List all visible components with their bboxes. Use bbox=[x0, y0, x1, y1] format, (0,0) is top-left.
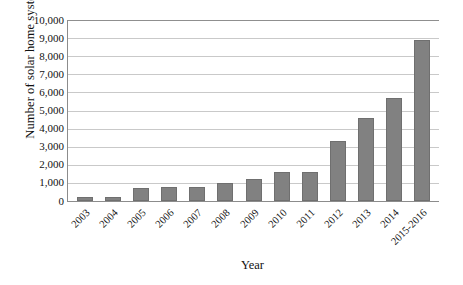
x-axis-tick-label: 2014 bbox=[378, 207, 401, 230]
bar-slot bbox=[99, 20, 127, 201]
x-axis-tick-label: 2011 bbox=[294, 207, 316, 229]
x-tick-slot: 2012 bbox=[323, 203, 351, 253]
x-axis-tick-label: 2007 bbox=[181, 207, 204, 230]
x-axis-tick-labels: 2003200420052006200720082009201020112012… bbox=[67, 203, 438, 253]
bar-slot bbox=[71, 20, 99, 201]
x-tick-slot: 2006 bbox=[154, 203, 182, 253]
bar-slot bbox=[183, 20, 211, 201]
y-axis-tick-label: 5,000 bbox=[26, 105, 64, 116]
bar bbox=[330, 141, 346, 201]
bar bbox=[133, 188, 149, 201]
bar bbox=[274, 172, 290, 201]
bar-slot bbox=[268, 20, 296, 201]
bar-slot bbox=[127, 20, 155, 201]
y-axis-tick-label: 7,000 bbox=[26, 69, 64, 80]
x-tick-slot: 2004 bbox=[98, 203, 126, 253]
bar-slot bbox=[408, 20, 436, 201]
x-axis-tick-label: 2004 bbox=[97, 207, 120, 230]
bar bbox=[386, 98, 402, 201]
bar-slot bbox=[155, 20, 183, 201]
bar bbox=[217, 183, 233, 201]
x-axis-tick-label: 2005 bbox=[125, 207, 148, 230]
bar bbox=[189, 187, 205, 201]
x-tick-slot: 2003 bbox=[70, 203, 98, 253]
bar bbox=[77, 197, 93, 201]
x-axis-tick-label: 2009 bbox=[238, 207, 261, 230]
x-tick-slot: 2007 bbox=[182, 203, 210, 253]
y-axis-tick-label: 8,000 bbox=[26, 51, 64, 62]
x-tick-slot: 2005 bbox=[126, 203, 154, 253]
y-axis-tick-label: 3,000 bbox=[26, 141, 64, 152]
y-axis-tick-label: 1,000 bbox=[26, 177, 64, 188]
x-axis-tick-label: 2012 bbox=[322, 207, 345, 230]
x-axis-tick-label: 2010 bbox=[266, 207, 289, 230]
bar-slot bbox=[352, 20, 380, 201]
bar bbox=[414, 40, 430, 201]
bar-slot bbox=[296, 20, 324, 201]
x-tick-slot: 2013 bbox=[351, 203, 379, 253]
x-tick-slot: 2011 bbox=[295, 203, 323, 253]
bar bbox=[246, 179, 262, 201]
x-axis-tick-label: 2003 bbox=[69, 207, 92, 230]
y-axis-tick-label: 0 bbox=[26, 196, 64, 207]
x-tick-slot: 2008 bbox=[210, 203, 238, 253]
bar-slot bbox=[380, 20, 408, 201]
bar bbox=[302, 172, 318, 201]
bar-chart-figure: Number of solar home systems 01,0002,000… bbox=[0, 0, 463, 285]
bar-slot bbox=[239, 20, 267, 201]
x-axis-title: Year bbox=[67, 258, 438, 273]
bar bbox=[105, 197, 121, 201]
x-axis-tick-label: 2013 bbox=[350, 207, 373, 230]
y-axis-tick-labels: 01,0002,0003,0004,0005,0006,0007,0008,00… bbox=[26, 14, 64, 208]
bar-slot bbox=[211, 20, 239, 201]
y-axis-tick-label: 10,000 bbox=[26, 15, 64, 26]
bar-slot bbox=[324, 20, 352, 201]
bars-series bbox=[68, 20, 439, 201]
plot-area bbox=[67, 20, 439, 202]
bar bbox=[161, 187, 177, 201]
y-axis-tick-label: 9,000 bbox=[26, 33, 64, 44]
y-axis-tick-label: 4,000 bbox=[26, 123, 64, 134]
x-tick-slot: 2015-2016 bbox=[407, 203, 435, 253]
x-axis-tick-label: 2006 bbox=[153, 207, 176, 230]
x-tick-slot: 2009 bbox=[238, 203, 266, 253]
x-tick-slot: 2010 bbox=[267, 203, 295, 253]
y-axis-tick-label: 6,000 bbox=[26, 87, 64, 98]
y-axis-tick-label: 2,000 bbox=[26, 159, 64, 170]
x-axis-tick-label: 2008 bbox=[210, 207, 233, 230]
bar bbox=[358, 118, 374, 201]
